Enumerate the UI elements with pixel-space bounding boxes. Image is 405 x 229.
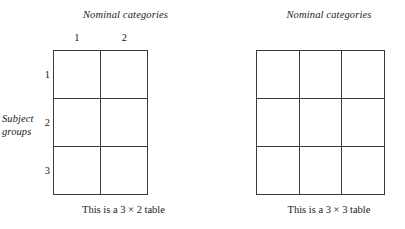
- figure-3x2: Nominal categories 1 2 1 2 3 Subject gro…: [0, 0, 203, 229]
- table-cell: [101, 147, 148, 195]
- table-cell: [342, 99, 385, 147]
- table-cell: [300, 51, 343, 99]
- table-cell: [342, 147, 385, 195]
- table-cell: [300, 99, 343, 147]
- table-cell: [101, 99, 148, 147]
- figure-caption: This is a 3 × 3 table: [203, 203, 405, 217]
- table-cell: [300, 147, 343, 195]
- row-header-3: 3: [36, 147, 50, 195]
- table-cell: [101, 51, 148, 99]
- column-axis-label: Nominal categories: [203, 8, 405, 21]
- table-cell: [54, 147, 101, 195]
- row-axis-label-line-2: groups: [2, 126, 46, 139]
- column-header-1: 1: [53, 30, 101, 45]
- column-header-row: 1 2: [53, 30, 148, 45]
- table-cell: [257, 51, 300, 99]
- table-cell: [257, 147, 300, 195]
- table-cell: [54, 99, 101, 147]
- row-axis-label: Subject groups: [2, 113, 46, 138]
- figure-caption: This is a 3 × 2 table: [0, 203, 203, 217]
- table-cell: [257, 99, 300, 147]
- row-axis-label-line-1: Subject: [2, 113, 46, 126]
- column-axis-label: Nominal categories: [0, 8, 203, 21]
- figure-3x3: Nominal categories 1 2 3 (etc.) 1 2 3 Su…: [203, 0, 405, 229]
- row-header-1: 1: [36, 50, 50, 98]
- table-grid: [256, 50, 385, 195]
- table-grid: [53, 50, 148, 195]
- table-cell: [342, 51, 385, 99]
- column-header-2: 2: [101, 30, 149, 45]
- table-cell: [54, 51, 101, 99]
